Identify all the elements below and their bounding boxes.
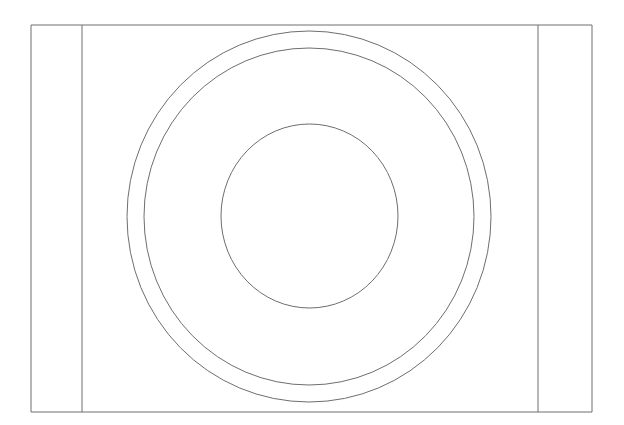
drawing-canvas — [0, 0, 624, 425]
outer-circle — [127, 31, 491, 402]
frame-rectangle — [31, 25, 592, 412]
middle-circle — [144, 48, 474, 385]
line-drawing-svg — [0, 0, 624, 425]
inner-circle — [221, 124, 398, 308]
